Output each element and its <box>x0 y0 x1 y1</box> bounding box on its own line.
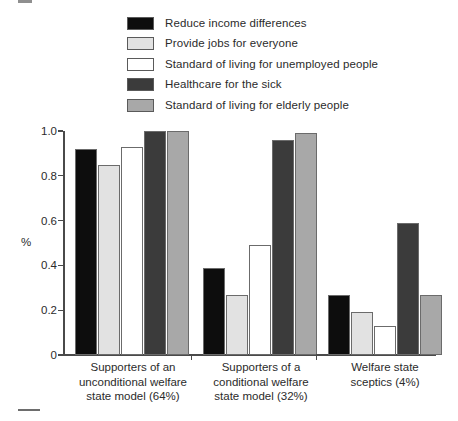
bar <box>374 326 396 355</box>
bar <box>420 295 442 355</box>
x-axis-group-label: Welfare state sceptics (4%) <box>325 360 445 389</box>
bar <box>249 245 271 355</box>
y-axis-tick-label: 0.4 <box>41 259 57 271</box>
legend-label: Healthcare for the sick <box>165 78 282 91</box>
bar <box>121 147 143 355</box>
y-axis-tick <box>58 220 63 221</box>
bar <box>272 140 294 355</box>
bottom-corner-mark <box>18 409 40 411</box>
legend-item[interactable]: Standard of living for elderly people <box>127 95 427 116</box>
legend-label: Standard of living for elderly people <box>165 99 349 112</box>
y-axis-title: % <box>21 236 31 248</box>
y-axis-tick <box>58 130 63 131</box>
legend-swatch-icon <box>127 17 154 30</box>
y-axis-tick-label: 0.2 <box>41 304 57 316</box>
chart-legend: Reduce income differencesProvide jobs fo… <box>127 13 427 116</box>
y-axis-tick <box>58 310 63 311</box>
x-axis-group-label: Supporters of an unconditional welfare s… <box>68 360 198 404</box>
legend-label: Standard of living for unemployed people <box>165 58 378 71</box>
plot-area <box>63 131 436 355</box>
x-axis-group-label: Supporters of a conditional welfare stat… <box>196 360 326 404</box>
y-axis-tick-label: 0.6 <box>41 215 57 227</box>
bar <box>167 131 189 355</box>
bar <box>144 131 166 355</box>
y-axis-tick <box>58 175 63 176</box>
x-axis-group-labels: Supporters of an unconditional welfare s… <box>63 360 443 415</box>
bar <box>295 133 317 355</box>
y-axis-tick-label: 1.0 <box>41 125 57 137</box>
y-axis-tick <box>58 265 63 266</box>
legend-swatch-icon <box>127 58 154 71</box>
legend-item[interactable]: Reduce income differences <box>127 13 427 34</box>
bar <box>351 312 373 355</box>
top-corner-mark <box>18 0 32 3</box>
y-axis-line <box>63 131 65 355</box>
legend-item[interactable]: Provide jobs for everyone <box>127 34 427 55</box>
legend-swatch-icon <box>127 99 154 112</box>
legend-swatch-icon <box>127 37 154 50</box>
bar <box>397 223 419 355</box>
bar <box>226 295 248 355</box>
legend-label: Reduce income differences <box>165 17 307 30</box>
legend-item[interactable]: Healthcare for the sick <box>127 75 427 96</box>
y-axis-tick-label: 0 <box>51 349 57 361</box>
legend-swatch-icon <box>127 78 154 91</box>
y-axis-tick-label: 0.8 <box>41 170 57 182</box>
y-axis-tick <box>58 354 63 355</box>
bar <box>75 149 97 355</box>
bar <box>98 165 120 355</box>
legend-item[interactable]: Standard of living for unemployed people <box>127 54 427 75</box>
legend-label: Provide jobs for everyone <box>165 37 298 50</box>
bar <box>203 268 225 355</box>
bar <box>328 295 350 355</box>
